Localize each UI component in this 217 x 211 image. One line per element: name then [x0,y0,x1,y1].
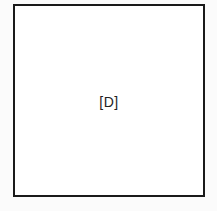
box-label: [D] [15,94,203,110]
diagram-box: [D] [13,4,205,197]
